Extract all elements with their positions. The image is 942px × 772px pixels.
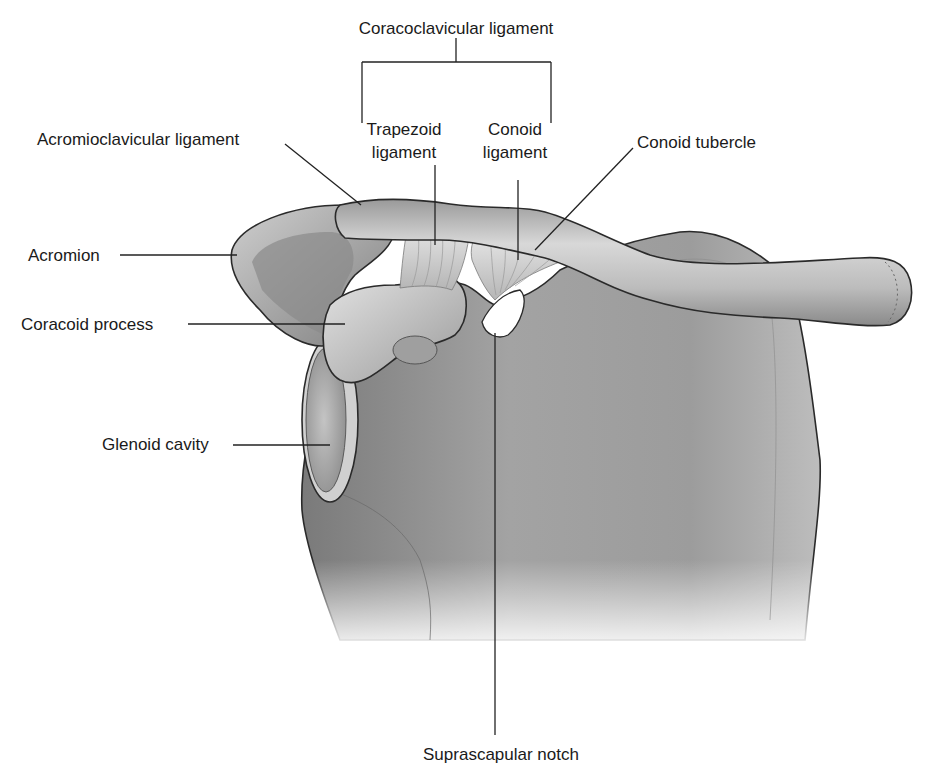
coracoid-base: [393, 336, 437, 364]
label-acromioclavicular-ligament: Acromioclavicular ligament: [37, 130, 239, 149]
leader-acromioclavicular: [285, 144, 361, 205]
label-glenoid-cavity: Glenoid cavity: [102, 435, 209, 454]
label-conoid-line1: Conoid: [488, 120, 542, 139]
label-trapezoid-line2: ligament: [372, 143, 437, 162]
fade-overlay: [300, 560, 830, 655]
label-trapezoid-line1: Trapezoid: [367, 120, 442, 139]
label-suprascapular-notch: Suprascapular notch: [423, 745, 579, 764]
label-conoid-line2: ligament: [483, 143, 548, 162]
label-acromion: Acromion: [28, 246, 100, 265]
label-coracoid-process: Coracoid process: [21, 315, 153, 334]
shoulder-anatomy-illustration: Coracoclavicular ligament Trapezoid liga…: [0, 0, 942, 772]
label-conoid-tubercle: Conoid tubercle: [637, 133, 756, 152]
label-coracoclavicular-ligament: Coracoclavicular ligament: [359, 19, 554, 38]
